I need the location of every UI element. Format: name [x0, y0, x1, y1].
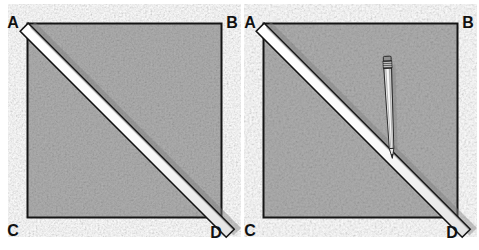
vertex-label-D-left: D: [210, 224, 222, 241]
vertex-label-B-left: B: [226, 14, 238, 31]
figure-root: A B C D: [0, 0, 479, 250]
pencil-eraser: [383, 56, 391, 61]
panel-left: A B C D: [7, 14, 241, 241]
vertex-label-B-right: B: [462, 14, 474, 31]
vertex-label-A-right: A: [244, 14, 256, 31]
vertex-label-D-right: D: [446, 224, 458, 241]
panel-right: A B C D: [244, 14, 477, 241]
vertex-label-A-left: A: [7, 14, 19, 31]
diagram-canvas: A B C D: [0, 0, 479, 250]
vertex-label-C-right: C: [244, 222, 256, 239]
vertex-label-C-left: C: [7, 222, 19, 239]
